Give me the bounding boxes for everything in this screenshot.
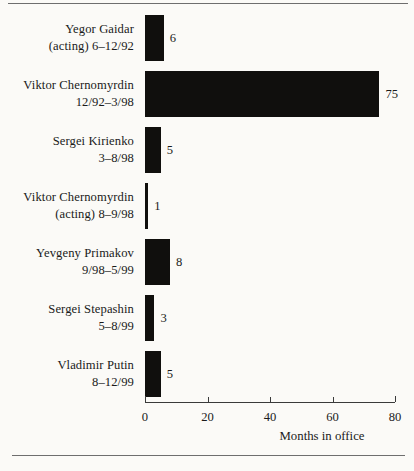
bar-category-label-line1: Sergei Stepashin: [48, 301, 134, 318]
x-axis-tick-label: 40: [264, 410, 277, 425]
bar-row: Sergei Stepashin5–8/993: [0, 290, 414, 346]
bar: [145, 127, 161, 173]
bar-category-label: Yegor Gaidar(acting) 6–12/92: [0, 10, 134, 66]
bar: [145, 239, 170, 285]
x-axis-title-text: Months in office: [279, 429, 364, 444]
bar-row: Sergei Kirienko3–8/985: [0, 122, 414, 178]
bar-value-label: 5: [167, 122, 173, 178]
bar-category-label-line1: Yegor Gaidar: [65, 21, 134, 38]
bar: [145, 351, 161, 397]
bar-value-label: 1: [154, 178, 160, 234]
bar-chart-figure: Yegor Gaidar(acting) 6–12/926Viktor Cher…: [0, 0, 414, 471]
bar-value-label: 5: [167, 346, 173, 402]
x-axis-tick: [208, 397, 209, 402]
top-divider-rule: [8, 3, 408, 4]
plot-area: Yegor Gaidar(acting) 6–12/926Viktor Cher…: [0, 10, 414, 402]
bar-category-label-line1: Yevgeny Primakov: [36, 245, 134, 262]
x-axis-tick: [395, 396, 396, 402]
bar-row: Viktor Chernomyrdin(acting) 8–9/981: [0, 178, 414, 234]
bottom-divider-rule: [12, 455, 405, 456]
bar-category-label: Viktor Chernomyrdin(acting) 8–9/98: [0, 178, 134, 234]
bar-category-label: Sergei Kirienko3–8/98: [0, 122, 134, 178]
bar-category-label: Yevgeny Primakov9/98–5/99: [0, 234, 134, 290]
bar-category-label: Sergei Stepashin5–8/99: [0, 290, 134, 346]
x-axis-tick: [145, 396, 146, 402]
bar-category-label-line2: 5–8/99: [98, 318, 134, 335]
bar-category-label-line2: 3–8/98: [98, 150, 134, 167]
bar-value-label: 8: [176, 234, 182, 290]
bar-value-label: 75: [385, 66, 398, 122]
x-axis-title: Months in office: [0, 429, 414, 444]
bar-category-label-line1: Sergei Kirienko: [53, 133, 134, 150]
bar-category-label-line2: 12/92–3/98: [76, 94, 134, 111]
bar: [145, 183, 148, 229]
x-axis-tick-label: 20: [201, 410, 214, 425]
bar-row: Vladimir Putin8–12/995: [0, 346, 414, 402]
x-axis-tick-label: 0: [142, 410, 148, 425]
bar-category-label-line2: 9/98–5/99: [82, 262, 134, 279]
bar-category-label-line1: Viktor Chernomyrdin: [23, 189, 134, 206]
bar: [145, 15, 164, 61]
x-axis-tick-label: 80: [389, 410, 402, 425]
bar-category-label-line2: (acting) 8–9/98: [55, 206, 134, 223]
bar-category-label-line1: Vladimir Putin: [57, 357, 134, 374]
bar-category-label-line2: (acting) 6–12/92: [49, 38, 134, 55]
bar: [145, 295, 154, 341]
bar-value-label: 6: [170, 10, 176, 66]
x-axis-line: [145, 402, 395, 403]
bar-category-label: Vladimir Putin8–12/99: [0, 346, 134, 402]
bar-value-label: 3: [160, 290, 166, 346]
bar-category-label-line2: 8–12/99: [92, 374, 134, 391]
bar: [145, 71, 379, 117]
bar-row: Yegor Gaidar(acting) 6–12/926: [0, 10, 414, 66]
bar-row: Yevgeny Primakov9/98–5/998: [0, 234, 414, 290]
bar-row: Viktor Chernomyrdin12/92–3/9875: [0, 66, 414, 122]
x-axis-tick: [333, 397, 334, 402]
x-axis-tick: [270, 397, 271, 402]
x-axis-tick-label: 60: [326, 410, 339, 425]
bar-category-label-line1: Viktor Chernomyrdin: [23, 77, 134, 94]
bar-category-label: Viktor Chernomyrdin12/92–3/98: [0, 66, 134, 122]
